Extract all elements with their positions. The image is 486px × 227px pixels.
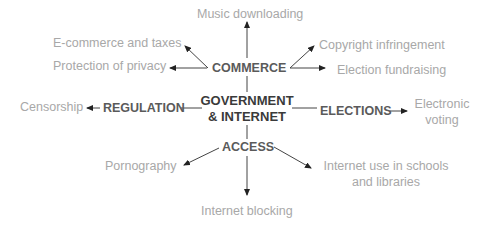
center-line1: GOVERNMENT	[192, 93, 302, 109]
electronic-voting-line2: voting	[410, 112, 474, 128]
leaf-music-downloading: Music downloading	[197, 6, 303, 22]
hub-elections: ELECTIONS	[320, 103, 392, 119]
leaf-censorship: Censorship	[20, 99, 83, 115]
leaf-electronic-voting: Electronic voting	[410, 96, 474, 128]
leaf-protection-privacy: Protection of privacy	[53, 58, 166, 74]
leaf-internet-schools: Internet use in schools and libraries	[318, 158, 454, 190]
internet-schools-line1: Internet use in schools	[318, 158, 454, 174]
center-node: GOVERNMENT & INTERNET	[192, 93, 302, 125]
leaf-ecommerce-taxes: E-commerce and taxes	[53, 35, 182, 51]
leaf-pornography: Pornography	[105, 158, 177, 174]
leaf-copyright: Copyright infringement	[319, 37, 445, 53]
hub-commerce: COMMERCE	[212, 60, 286, 76]
electronic-voting-line1: Electronic	[410, 96, 474, 112]
internet-schools-line2: and libraries	[318, 174, 454, 190]
leaf-election-fundraising: Election fundraising	[337, 62, 446, 78]
hub-regulation: REGULATION	[103, 100, 185, 116]
hub-access: ACCESS	[222, 139, 274, 155]
leaf-internet-blocking: Internet blocking	[201, 203, 293, 219]
diagram-canvas: GOVERNMENT & INTERNET COMMERCE REGULATIO…	[0, 0, 486, 227]
center-line2: & INTERNET	[192, 109, 302, 125]
